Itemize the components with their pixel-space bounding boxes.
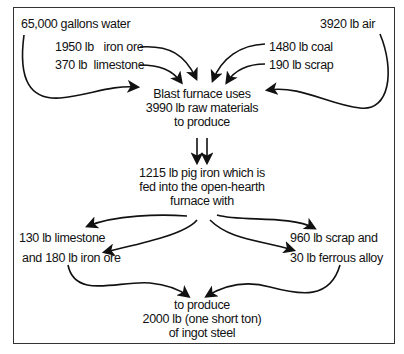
oh-input-scrap: 960 lb scrap and xyxy=(290,231,378,245)
input-air: 3920 lb air xyxy=(320,17,375,31)
arrow-ferrous-alloy xyxy=(210,220,293,250)
blast-furnace-line-1: Blast furnace uses xyxy=(132,87,272,101)
blast-furnace-line-2: 3990 lb raw materials xyxy=(132,101,272,115)
arrow-iron-ore xyxy=(140,47,196,78)
output-text: to produce 2000 lb (one short ton) of in… xyxy=(127,298,277,340)
output-line-1: to produce xyxy=(127,298,277,312)
blast-furnace-line-3: to produce xyxy=(132,115,272,129)
input-coal: 1480 lb coal xyxy=(269,40,333,54)
input-water: 65,000 gallons water xyxy=(21,17,130,31)
arrow-oh-limestone xyxy=(88,215,187,226)
oh-input-limestone: 130 lb limestone xyxy=(19,231,105,245)
arrow-left-product xyxy=(68,265,188,296)
input-scrap: 190 lb scrap xyxy=(269,58,334,72)
output-line-3: of ingot steel xyxy=(127,326,277,340)
arrow-scrap xyxy=(227,64,265,82)
output-line-2: 2000 lb (one short ton) xyxy=(127,312,277,326)
oh-input-iron-ore: and 180 lb iron ore xyxy=(22,251,121,265)
arrow-oh-iron-ore xyxy=(105,220,197,252)
arrow-coal xyxy=(213,44,265,80)
arrow-oh-scrap xyxy=(217,215,314,228)
input-iron-ore: 1950 lb iron ore xyxy=(55,40,143,54)
pig-iron-line-2: fed into the open-hearth xyxy=(127,180,277,194)
input-limestone: 370 lb limestone xyxy=(55,58,144,72)
arrow-limestone xyxy=(140,65,181,82)
oh-input-ferrous-alloy: 30 lb ferrous alloy xyxy=(290,251,383,265)
pig-iron-text: 1215 lb pig iron which is fed into the o… xyxy=(127,166,277,208)
pig-iron-line-1: 1215 lb pig iron which is xyxy=(127,166,277,180)
blast-furnace-text: Blast furnace uses 3990 lb raw materials… xyxy=(132,87,272,129)
pig-iron-line-3: furnace with xyxy=(127,194,277,208)
arrow-right-product xyxy=(207,265,340,296)
